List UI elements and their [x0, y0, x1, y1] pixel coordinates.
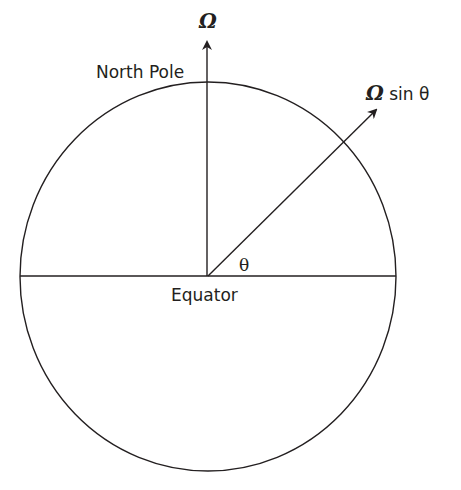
equator-label: Equator	[171, 285, 238, 305]
omega-symbol: Ω	[365, 81, 384, 105]
sin-theta-text: sin θ	[384, 84, 430, 104]
omega-axis-label: Ω	[198, 9, 217, 33]
omega-sin-theta-label: Ω sin θ	[365, 81, 429, 105]
north-pole-label: North Pole	[96, 62, 184, 82]
theta-angle-label: θ	[239, 255, 249, 275]
omega-sin-theta-arrow	[208, 110, 376, 276]
earth-rotation-diagram: Ω North Pole Ω sin θ θ Equator	[0, 0, 461, 490]
